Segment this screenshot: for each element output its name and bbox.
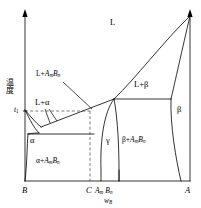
compound-sub-n: n: [57, 159, 60, 165]
solidus-alpha: [25, 110, 39, 133]
compound-tick-sub-m: m: [100, 189, 104, 195]
leader-line-compound-label: [63, 82, 92, 109]
gamma-right-boundary: [114, 99, 119, 181]
region-label-beta: β: [177, 105, 181, 114]
region-label-liquid-plus-compound: L+AmBn: [36, 70, 60, 78]
compound-sub-n: n: [58, 72, 61, 78]
x-tick-label-A: A: [185, 186, 190, 195]
y-axis-arrow: [22, 9, 27, 17]
region-label-beta-plus-compound: β+AmBn: [122, 136, 145, 144]
region-label-liquid-alpha: L+α: [35, 98, 49, 107]
phase-diagram-svg: [0, 0, 201, 208]
solidus-beta: [171, 16, 190, 99]
region-label-gamma: γ: [106, 136, 110, 145]
alpha-plus-prefix: α+: [36, 156, 44, 165]
liquid-plus-prefix: L+: [36, 69, 45, 78]
compound-element-b: B: [53, 69, 58, 78]
x-tick-label-compound: AmBn: [95, 187, 112, 195]
y-axis-label-temperature: 温度: [4, 78, 12, 94]
x-axis-title: wB: [104, 197, 112, 205]
phase-diagram-figure: 温度 L L+β β L+α α γ L+AmBn α+AmBn β+AmBn …: [0, 0, 201, 208]
region-label-liquid-beta: L+β: [134, 80, 148, 89]
t1-subscript: 1: [16, 108, 19, 114]
region-label-alpha-plus-compound: α+AmBn: [36, 157, 60, 165]
x-tick-label-B: B: [22, 186, 27, 195]
compound-tick-sub-n: n: [110, 189, 113, 195]
compound-sub-m: m: [135, 138, 139, 144]
compound-sub-n: n: [143, 138, 146, 144]
x-axis-sub-B: B: [109, 199, 112, 205]
region-label-alpha: α: [30, 136, 34, 145]
compound-tick-a: A: [95, 186, 100, 195]
x-tick-label-C: C: [86, 186, 92, 195]
compound-sub-m: m: [49, 159, 53, 165]
liquidus-right-branch: [114, 16, 190, 99]
solvus-alpha-boundary: [25, 134, 28, 181]
region-label-liquid: L: [110, 18, 115, 27]
compound-sub-m: m: [49, 72, 53, 78]
temperature-marker-t1: t1: [14, 106, 19, 114]
beta-plus-prefix: β+: [122, 135, 130, 144]
compound-element-a: A: [130, 135, 135, 144]
